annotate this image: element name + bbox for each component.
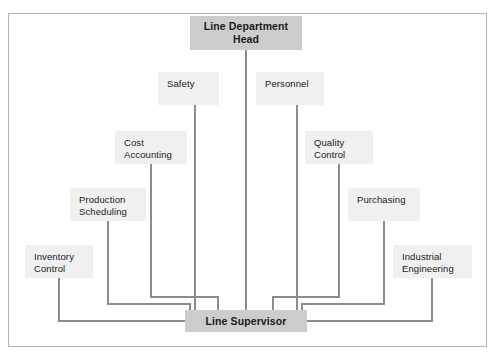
node-line-supervisor[interactable]: Line Supervisor	[185, 310, 307, 332]
connector-industrial-to-supervisor	[306, 278, 432, 321]
node-industrial-engineering[interactable]: Industrial Engineering	[393, 245, 472, 278]
connector-inventory-to-supervisor	[59, 278, 186, 321]
node-safety[interactable]: Safety	[158, 72, 219, 105]
org-chart-canvas: Line Department Head Safety Personnel Co…	[0, 0, 495, 360]
node-inventory-control[interactable]: Inventory Control	[25, 245, 93, 278]
node-production-scheduling[interactable]: Production Scheduling	[70, 188, 146, 221]
connector-cost-to-supervisor	[151, 164, 218, 311]
node-personnel[interactable]: Personnel	[256, 72, 324, 105]
node-cost-accounting[interactable]: Cost Accounting	[115, 131, 187, 164]
connector-quality-to-supervisor	[273, 164, 339, 311]
node-quality-control[interactable]: Quality Control	[305, 131, 373, 164]
node-purchasing[interactable]: Purchasing	[348, 188, 420, 221]
node-line-department-head[interactable]: Line Department Head	[190, 16, 302, 50]
connector-layer	[0, 0, 495, 360]
